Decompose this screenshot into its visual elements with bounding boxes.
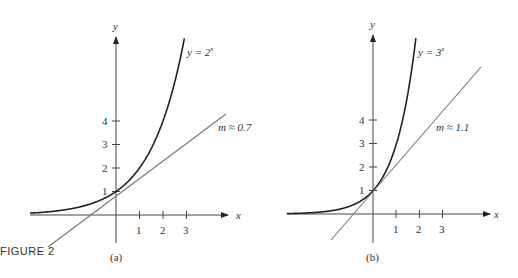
- xtick: 1: [393, 223, 399, 235]
- ytick: 4: [102, 115, 108, 127]
- ytick: 1: [102, 185, 108, 197]
- curve-3x: [287, 38, 416, 214]
- figure-caption: FIGURE 2: [0, 245, 55, 257]
- ticks: [369, 120, 443, 218]
- slope-label: m ≈ 0.7: [218, 121, 252, 133]
- xtick: 2: [416, 223, 422, 235]
- slope-label: m ≈ 1.1: [436, 121, 469, 133]
- curve-label: y = 2x: [186, 45, 214, 58]
- ytick: 4: [359, 114, 365, 126]
- ytick: 2: [359, 161, 365, 173]
- panel-a: [30, 37, 228, 247]
- x-axis-label: x: [493, 208, 499, 220]
- ytick: 3: [102, 138, 108, 150]
- ticks: [112, 121, 187, 219]
- xtick: 1: [136, 224, 142, 236]
- xtick: 3: [183, 224, 189, 236]
- y-axis-label: y: [112, 20, 118, 32]
- xtick: 2: [160, 224, 166, 236]
- panel-b: [287, 35, 490, 243]
- curve-label: y = 3x: [417, 45, 445, 58]
- figure-canvas: y x 1 2 3 1 2 3 4 y = 2x m ≈ 0.7 (a) y x…: [0, 0, 518, 278]
- y-axis-label: y: [369, 18, 375, 30]
- ytick: 2: [102, 162, 108, 174]
- panel-label: (b): [366, 251, 379, 264]
- panel-label: (a): [110, 251, 123, 264]
- ytick: 3: [359, 137, 365, 149]
- xtick: 3: [439, 223, 445, 235]
- x-axis-label: x: [235, 209, 241, 221]
- ytick: 1: [359, 184, 365, 196]
